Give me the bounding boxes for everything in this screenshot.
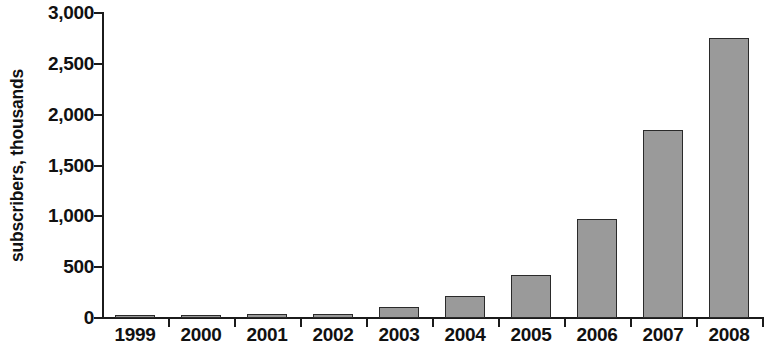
bar: [445, 296, 485, 318]
x-axis-tick-label: 2007: [642, 324, 683, 346]
y-axis-tick-label: 1,000: [48, 205, 94, 227]
x-axis-tick-label: 1999: [114, 324, 155, 346]
bars-layer: [102, 13, 762, 318]
x-axis-tick-label: 2001: [246, 324, 287, 346]
bar-chart-figure: subscribers, thousands 05001,0001,5002,0…: [0, 0, 770, 356]
y-axis-tick-label: 0: [84, 307, 94, 329]
y-axis-tick-label: 500: [63, 256, 94, 278]
x-axis-tick-label: 2008: [708, 324, 749, 346]
bar: [379, 307, 419, 318]
bar: [643, 130, 683, 318]
y-axis-title-text: subscribers, thousands: [7, 68, 28, 261]
bar: [577, 219, 617, 318]
x-axis-tick-label: 2004: [444, 324, 485, 346]
y-axis-tick-labels: 05001,0001,5002,0002,5003,000: [34, 0, 98, 330]
bar: [115, 315, 155, 318]
x-axis-tick-mark: [762, 318, 764, 327]
x-axis-tick-label: 2000: [180, 324, 221, 346]
x-axis-tick-label: 2002: [312, 324, 353, 346]
x-axis-tick-label: 2005: [510, 324, 551, 346]
bar: [247, 314, 287, 318]
bar: [313, 314, 353, 318]
y-axis-title: subscribers, thousands: [0, 0, 34, 330]
x-axis-tick-label: 2003: [378, 324, 419, 346]
bar: [181, 315, 221, 318]
y-axis-tick-label: 3,000: [48, 2, 94, 24]
x-axis-tick-labels: 1999200020012002200320042005200620072008: [102, 324, 762, 354]
y-axis-tick-label: 2,500: [48, 53, 94, 75]
y-axis-tick-label: 2,000: [48, 104, 94, 126]
plot-area: [102, 13, 762, 318]
x-axis-tick-label: 2006: [576, 324, 617, 346]
bar: [511, 275, 551, 318]
y-axis-tick-label: 1,500: [48, 155, 94, 177]
bar: [709, 38, 749, 318]
